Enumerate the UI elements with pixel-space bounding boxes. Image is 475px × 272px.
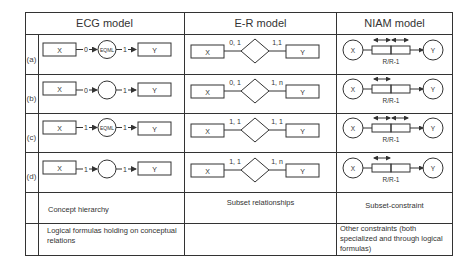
niam-other-constraints: Other constraints (both specialized and … (340, 224, 448, 254)
ecg-diagrams: X 0 EQML 1 Y X 0 1 Y (39, 35, 184, 192)
svg-text:EQML: EQML (100, 125, 114, 131)
svg-text:Y: Y (152, 126, 157, 133)
er-diagrams: X 0, 1 1,1 Y X 0, 1 1, n Y X 1, 1 (185, 35, 336, 192)
svg-text:R/R-1: R/R-1 (383, 97, 400, 104)
row-label-c: (c) (25, 133, 38, 142)
svg-text:1: 1 (123, 166, 127, 173)
svg-text:X: X (351, 47, 356, 54)
svg-text:Y: Y (152, 166, 157, 173)
svg-text:1: 1 (123, 124, 127, 131)
svg-text:1, 1: 1, 1 (229, 158, 241, 165)
niam-row-b: X Y R/R-1 (343, 79, 443, 104)
svg-text:X: X (351, 125, 356, 132)
svg-text:X: X (351, 86, 356, 93)
er-row-c: X 1, 1 1, 1 Y (191, 118, 319, 142)
niam-diagrams: X Y R/R-1 X Y R/R-1 (337, 35, 452, 192)
svg-text:X: X (205, 89, 210, 96)
svg-text:0, 1: 0, 1 (229, 79, 241, 86)
svg-text:R/R-1: R/R-1 (383, 58, 400, 65)
ecg-row-a: X 0 EQML 1 Y (43, 41, 171, 59)
ecg-row-c: X 1 EQML 1 Y (43, 119, 171, 137)
svg-text:X: X (57, 47, 62, 54)
svg-text:X: X (351, 165, 356, 172)
svg-text:Y: Y (152, 87, 157, 94)
svg-text:1: 1 (123, 87, 127, 94)
table-border-right (452, 12, 453, 256)
row-label-a: (a) (25, 55, 38, 64)
svg-text:0: 0 (84, 87, 88, 94)
svg-text:1, n: 1, n (271, 158, 283, 165)
ecg-row-b: X 0 1 Y (43, 81, 171, 99)
svg-text:1, n: 1, n (271, 79, 283, 86)
er-row-b: X 0, 1 1, n Y (191, 79, 319, 103)
header-ecg: ECG model (25, 12, 184, 34)
svg-text:Y: Y (300, 89, 305, 96)
svg-text:X: X (205, 49, 210, 56)
ecg-row-d: X 1 1 Y (43, 160, 171, 178)
svg-text:0, 1: 0, 1 (229, 39, 241, 46)
svg-text:1,1: 1,1 (272, 39, 282, 46)
svg-text:Y: Y (300, 168, 305, 175)
er-subset-relationships: Subset relationships (185, 198, 336, 208)
svg-text:Y: Y (431, 86, 436, 93)
niam-row-a: X Y R/R-1 (343, 40, 443, 65)
svg-text:Y: Y (152, 47, 157, 54)
svg-text:X: X (205, 168, 210, 175)
niam-subset-constraint: Subset-constraint (337, 201, 452, 211)
er-row-a: X 0, 1 1,1 Y (191, 39, 319, 63)
svg-text:X: X (57, 165, 62, 172)
svg-text:1, 1: 1, 1 (229, 118, 241, 125)
svg-text:0: 0 (84, 46, 88, 53)
svg-text:EQML: EQML (100, 47, 114, 53)
svg-text:X: X (57, 86, 62, 93)
svg-text:R/R-1: R/R-1 (383, 176, 400, 183)
model-comparison-table: ECG model E-R model NIAM model (a) (b) (… (25, 12, 452, 255)
svg-text:X: X (57, 125, 62, 132)
svg-text:Y: Y (431, 47, 436, 54)
table-border-bottom (25, 255, 452, 256)
er-row-d: X 1, 1 1, n Y (191, 158, 319, 182)
row-label-d: (d) (25, 172, 38, 181)
svg-text:1: 1 (84, 166, 88, 173)
header-er: E-R model (185, 12, 336, 34)
svg-text:Y: Y (300, 128, 305, 135)
svg-text:1: 1 (123, 46, 127, 53)
svg-text:Y: Y (431, 165, 436, 172)
ecg-logical-formulas: Logical formulas holding on conceptual r… (47, 226, 177, 246)
row-divider (25, 192, 452, 193)
svg-text:X: X (205, 128, 210, 135)
header-niam: NIAM model (337, 12, 452, 34)
svg-text:R/R-1: R/R-1 (383, 136, 400, 143)
row-label-b: (b) (25, 94, 38, 103)
niam-row-c: X Y R/R-1 (343, 118, 443, 143)
svg-text:Y: Y (431, 125, 436, 132)
svg-text:1: 1 (84, 124, 88, 131)
niam-row-d: X Y R/R-1 (343, 158, 443, 183)
svg-text:Y: Y (300, 49, 305, 56)
ecg-concept-hierarchy: Concept hierarchy (48, 205, 109, 215)
svg-text:1, 1: 1, 1 (271, 118, 283, 125)
